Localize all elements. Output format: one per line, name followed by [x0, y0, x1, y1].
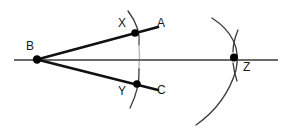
- point-Z: [230, 54, 238, 62]
- point-X: [131, 29, 139, 37]
- arc-group: [128, 11, 238, 125]
- point-B: [33, 55, 41, 63]
- compass-arc-large-through-Z: [196, 18, 237, 125]
- point-label-Z: Z: [243, 61, 250, 73]
- point-group: [33, 29, 238, 88]
- point-label-B: B: [26, 40, 34, 52]
- geometry-diagram: B X A Y C Z: [0, 0, 286, 130]
- compass-arc-through-X-upper: [128, 11, 139, 45]
- point-label-C: C: [157, 84, 166, 96]
- compass-arc-through-Y-lower: [130, 69, 139, 108]
- point-label-A: A: [157, 17, 165, 29]
- compass-arc-through-X-Y-faded: [139, 45, 140, 69]
- point-Y: [133, 80, 141, 88]
- point-label-Y: Y: [118, 85, 126, 97]
- point-label-X: X: [118, 17, 126, 29]
